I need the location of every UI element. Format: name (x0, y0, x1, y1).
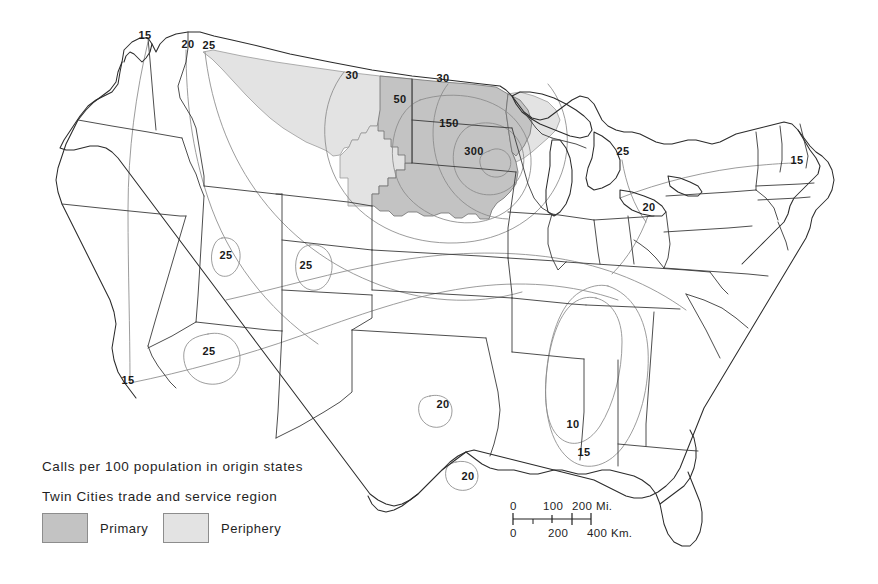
state-line-mi-wi (552, 138, 586, 148)
state-line-id-mt (178, 32, 204, 186)
state-line-tn-ms (586, 305, 680, 309)
contour-label: 30 (437, 72, 450, 84)
scale-km-0: 0 (510, 527, 517, 539)
contour-label: 20 (643, 201, 656, 213)
contour-label: 15 (139, 29, 152, 41)
state-line-ky-wv (634, 240, 664, 268)
legend-label-primary: Primary (100, 521, 148, 536)
state-line-id-wy (204, 186, 282, 194)
scale-mi-200: 200 (572, 500, 592, 512)
contour-label: 20 (182, 38, 195, 50)
state-line-co-nm (282, 290, 372, 295)
state-line-or-id (182, 138, 204, 196)
state-line-sc-ga (686, 294, 720, 358)
lake-michigan (546, 140, 572, 216)
contour-15-northeast (620, 163, 796, 198)
state-line-az-nm (276, 331, 282, 438)
contour-label: 20 (437, 398, 450, 410)
state-line-ca-nv (148, 216, 186, 346)
contour-label: 25 (220, 249, 233, 261)
scale-unit-miles: Mi. (596, 500, 612, 512)
state-line-nv-az (148, 322, 196, 348)
state-line-nm-tx (352, 295, 372, 330)
state-line-ut-az (196, 322, 282, 331)
lake-huron-erie (586, 132, 620, 190)
contour-20-south (130, 284, 618, 383)
state-line-oh-pa (664, 212, 670, 268)
legend-swatch-periphery (163, 513, 209, 543)
scale-km-200: 200 (548, 527, 568, 539)
contour-label: 25 (617, 145, 630, 157)
contour-label: 25 (203, 345, 216, 357)
pacific-coast (56, 62, 136, 398)
contour-label: 300 (464, 145, 483, 157)
state-line-nv-ut (196, 196, 204, 322)
state-line-ma-ct (756, 183, 814, 186)
contour-25-arizona (184, 333, 240, 384)
contour-label: 25 (300, 259, 313, 271)
state-line-in-oh (628, 216, 634, 264)
state-line-ga-fl (618, 444, 698, 451)
legend-swatch-primary (42, 513, 88, 543)
state-line-wy-co (282, 240, 372, 250)
contour-label: 15 (578, 446, 591, 458)
region-subtitle: Twin Cities trade and service region (42, 489, 277, 504)
state-line-ky-tn (566, 262, 710, 272)
scale-unit-km: Km. (611, 527, 632, 539)
state-line-md-de (778, 222, 788, 250)
puget-sound (124, 44, 152, 62)
state-line-ny-ne (756, 132, 758, 190)
state-line-ks-ok (372, 290, 512, 298)
state-line-mo-ks (508, 258, 512, 298)
contour-label: 15 (791, 154, 804, 166)
trade-region-shading (203, 50, 560, 219)
contour-label: 150 (439, 117, 458, 129)
scale-km-400: 400 (587, 527, 607, 539)
state-line-ne-ks (372, 250, 508, 258)
map-figure: 15 20 25 30 30 50 150 300 25 15 20 25 25… (0, 0, 878, 584)
state-line-ok-tx (352, 330, 486, 338)
contour-label: 25 (203, 39, 216, 51)
scale-mi-100: 100 (543, 500, 563, 512)
state-line-va-nc (664, 268, 768, 276)
state-line-tn-nc (710, 272, 728, 294)
state-line-il-in (594, 220, 600, 264)
state-line-mi-in (594, 216, 654, 220)
scale-bar-graphic (513, 513, 591, 525)
contour-label: 15 (122, 374, 135, 386)
lake-ontario (668, 176, 702, 196)
contour-label: 30 (346, 69, 359, 81)
state-line-wi-il (552, 214, 594, 220)
state-line-ca-az (148, 346, 176, 388)
contour-25-south (226, 253, 686, 310)
state-line-tx-la (486, 338, 500, 456)
scale-mi-0: 0 (510, 500, 517, 512)
contour-label: 20 (462, 470, 475, 482)
legend-label-periphery: Periphery (221, 521, 281, 536)
state-line-nj (756, 190, 778, 220)
state-line-ms-la (580, 359, 584, 460)
state-line-wa-id (148, 38, 156, 130)
map-title: Calls per 100 population in origin state… (42, 459, 303, 474)
state-line-or-ca (62, 204, 186, 216)
state-line-vt-nh (780, 126, 782, 172)
state-line-wa-or (78, 120, 182, 138)
contour-label: 10 (567, 418, 580, 430)
contour-label: 50 (394, 93, 407, 105)
state-line-pa-md (664, 226, 752, 232)
